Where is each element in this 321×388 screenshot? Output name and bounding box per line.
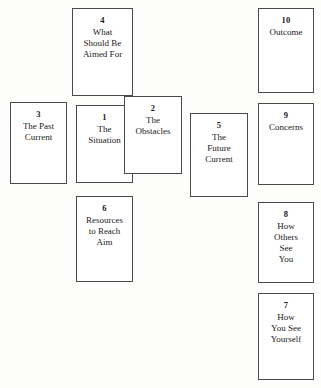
celtic-cross-spread-diagram: 4 What Should Be Aimed For 10 Outcome 3 … (0, 0, 321, 388)
spread-card-6[interactable]: 6 Resources to Reach Aim (76, 196, 133, 282)
card-4-number: 4 (73, 15, 132, 25)
spread-card-10[interactable]: 10 Outcome (258, 8, 314, 93)
card-6-label: Resources to Reach Aim (77, 215, 132, 248)
card-9-number: 9 (259, 110, 313, 120)
card-8-number: 8 (259, 209, 313, 219)
spread-card-8[interactable]: 8 How Others See You (258, 202, 314, 283)
spread-card-3[interactable]: 3 The Past Current (10, 102, 67, 184)
card-7-label: How You See Yourself (259, 312, 313, 345)
card-3-label: The Past Current (11, 121, 66, 143)
card-10-number: 10 (259, 15, 313, 25)
spread-card-9[interactable]: 9 Concerns (258, 103, 314, 185)
card-9-label: Concerns (259, 122, 313, 133)
card-8-label: How Others See You (259, 221, 313, 265)
card-2-label: The Obstacles (125, 115, 181, 137)
card-4-label: What Should Be Aimed For (73, 27, 132, 60)
card-3-number: 3 (11, 109, 66, 119)
spread-card-5[interactable]: 5 The Future Current (190, 113, 248, 197)
card-5-number: 5 (191, 120, 247, 130)
card-6-number: 6 (77, 203, 132, 213)
card-7-number: 7 (259, 300, 313, 310)
card-5-label: The Future Current (191, 132, 247, 165)
card-10-label: Outcome (259, 27, 313, 38)
spread-card-4[interactable]: 4 What Should Be Aimed For (72, 8, 133, 96)
spread-card-2[interactable]: 2 The Obstacles (124, 96, 182, 174)
card-2-number: 2 (125, 103, 181, 113)
spread-card-7[interactable]: 7 How You See Yourself (258, 293, 314, 380)
